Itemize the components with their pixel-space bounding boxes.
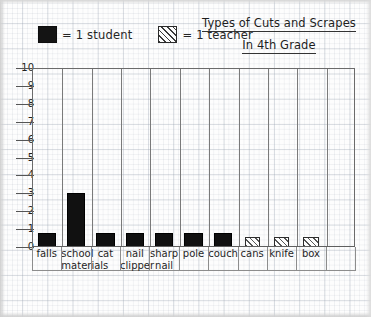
x-axis-baseline (32, 246, 355, 247)
paper-edge-right (366, 0, 371, 317)
label-divider (149, 247, 150, 271)
label-divider (61, 247, 62, 271)
label-divider (296, 247, 297, 271)
label-divider (238, 247, 239, 271)
paper-edge-top (0, 0, 371, 4)
x-axis-label-pole: pole (179, 248, 208, 260)
legend-swatch-student-icon (38, 26, 57, 43)
label-divider (32, 247, 33, 271)
bar-falls (38, 233, 56, 247)
bar-sharp-nail (155, 233, 173, 247)
bar-cat (96, 233, 114, 247)
legend-label-student: = 1 student (62, 28, 132, 42)
label-divider (355, 247, 356, 271)
chart-title-line-2: In 4th Grade (242, 39, 315, 54)
bar-school-materials (67, 193, 85, 247)
legend-item-student: = 1 student (38, 26, 132, 43)
y-axis: 109876543210 (14, 62, 34, 252)
x-axis-label-nail-clipper: nail clipper (120, 248, 149, 271)
legend-swatch-teacher-icon (158, 26, 177, 43)
label-divider (91, 247, 92, 271)
x-axis-label-cat: cat (91, 248, 120, 260)
x-axis-label-school-materials: school materials (61, 248, 90, 271)
chart-title-line-1: Types of Cuts and Scrapes (202, 17, 356, 32)
chart-title: Types of Cuts and Scrapes In 4th Grade (196, 12, 362, 56)
label-divider (326, 247, 327, 271)
bar-pole (184, 233, 202, 247)
x-axis-labels: fallsschool materialscatnail clippershar… (32, 248, 355, 282)
label-divider (208, 247, 209, 271)
paper-edge-left (0, 0, 5, 317)
label-divider (120, 247, 121, 271)
label-divider (267, 247, 268, 271)
label-divider (179, 247, 180, 271)
bar-nail-clipper (126, 233, 144, 247)
x-axis-label-sharp-nail: sharp nail (149, 248, 178, 271)
x-axis-label-box: box (296, 248, 325, 260)
x-axis-label-couch: couch (208, 248, 237, 260)
bars-layer (32, 68, 355, 247)
paper-edge-bottom (0, 312, 371, 317)
x-axis-label-knife: knife (267, 248, 296, 260)
x-axis-label-falls: falls (32, 248, 61, 260)
x-axis-label-cans: cans (238, 248, 267, 260)
bar-couch (214, 233, 232, 247)
